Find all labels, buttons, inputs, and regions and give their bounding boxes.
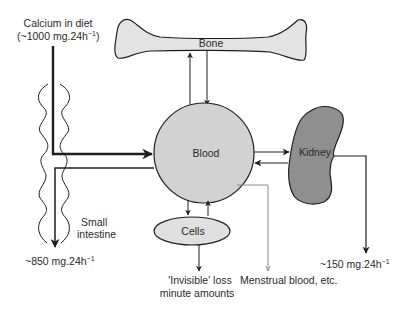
invisible-loss-label-line1: 'Invisible' loss — [168, 274, 232, 286]
kidney-label: Kidney — [299, 146, 332, 158]
blood-node: Blood — [154, 103, 254, 203]
bone-label: Bone — [199, 37, 224, 49]
diet-to-blood-arrow — [53, 46, 152, 154]
cells-node: Cells — [154, 217, 230, 245]
menstrual-label: Menstrual blood, etc. — [240, 274, 337, 286]
blood-label: Blood — [193, 147, 220, 159]
intestine-left-wall — [38, 84, 48, 243]
calcium-balance-diagram: Bone Blood Small intestine Calcium in di… — [0, 0, 401, 312]
kidney-node: Kidney — [289, 107, 344, 204]
bone-node: Bone — [115, 20, 307, 61]
urinary-output-label: ~150 mg.24h−1 — [320, 258, 390, 270]
cells-label: Cells — [181, 225, 204, 237]
small-intestine: Small intestine — [38, 84, 116, 243]
small-intestine-label-line1: Small — [81, 216, 107, 228]
diet-label-line1: Calcium in diet — [24, 17, 93, 29]
intestine-right-wall — [60, 84, 70, 243]
blood-to-menstrual-arrow — [237, 185, 268, 271]
faecal-output-label: ~850 mg.24h−1 — [25, 255, 95, 267]
diet-label-line2: (~1000 mg.24h−1) — [17, 30, 99, 42]
small-intestine-label-line2: intestine — [77, 228, 116, 240]
kidney-to-urinary-arrow — [334, 156, 366, 253]
invisible-loss-label-line2: minute amounts — [160, 287, 235, 299]
